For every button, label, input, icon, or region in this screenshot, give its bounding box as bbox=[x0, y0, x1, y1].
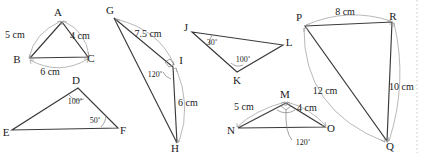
side-label-gi: 7.5 cm bbox=[134, 28, 161, 39]
vertex-label-r: R bbox=[389, 10, 397, 22]
dim-arc-ba-5cm bbox=[29, 21, 61, 58]
triangle-prq: P R Q 8 cm 10 cm 12 cm bbox=[296, 6, 414, 152]
vertex-label-m: M bbox=[280, 88, 290, 100]
vertex-label-q: Q bbox=[386, 140, 394, 152]
dim-arc-gi-75cm bbox=[116, 19, 174, 65]
side-label-ba: 5 cm bbox=[5, 29, 25, 40]
triangles-svg: A B C 5 cm 4 cm 6 cm D E F 100˚ 50˚ G I … bbox=[0, 0, 424, 153]
angle-label-f: 50˚ bbox=[90, 116, 101, 125]
angle-arc-f-50 bbox=[101, 115, 106, 127]
side-label-mo: 4 cm bbox=[297, 102, 317, 113]
side-label-ih: 6 cm bbox=[178, 97, 198, 108]
vertex-label-o: O bbox=[327, 122, 335, 134]
angle-label-j: 30˚ bbox=[207, 38, 218, 47]
angle-label-k: 100˚ bbox=[236, 55, 251, 64]
side-label-bc: 6 cm bbox=[40, 66, 60, 77]
vertex-label-l: L bbox=[286, 36, 293, 48]
triangle-jkl: J L K 30˚ 100˚ bbox=[184, 21, 293, 86]
angle-square-i-120 bbox=[165, 59, 174, 67]
vertex-label-c: C bbox=[87, 52, 94, 64]
angle-arc-i-120 bbox=[163, 72, 171, 79]
vertex-label-j: J bbox=[184, 21, 189, 33]
vertex-label-e: E bbox=[3, 126, 10, 138]
vertex-label-i: I bbox=[179, 54, 183, 66]
angle-leader-m-120 bbox=[286, 110, 292, 140]
angle-label-m: 120˚ bbox=[296, 138, 311, 147]
side-label-ac: 4 cm bbox=[70, 30, 90, 41]
vertex-label-g: G bbox=[106, 4, 114, 16]
triangle-abc: A B C 5 cm 4 cm 6 cm bbox=[5, 6, 95, 77]
side-label-pq: 12 cm bbox=[313, 85, 338, 96]
triangle-mno: M N O 5 cm 4 cm 120˚ bbox=[227, 88, 335, 147]
dim-arrow-a2 bbox=[62, 21, 67, 25]
triangle-def-outline bbox=[12, 88, 118, 130]
geometry-figure-canvas: A B C 5 cm 4 cm 6 cm D E F 100˚ 50˚ G I … bbox=[0, 0, 424, 153]
vertex-label-b: B bbox=[13, 53, 20, 65]
angle-label-d: 100˚ bbox=[68, 97, 83, 106]
vertex-label-p: P bbox=[296, 11, 302, 23]
angle-label-i: 120˚ bbox=[148, 70, 163, 79]
vertex-label-a: A bbox=[54, 6, 62, 18]
side-label-pr: 8 cm bbox=[335, 6, 355, 17]
vertex-label-n: N bbox=[227, 124, 235, 136]
vertex-label-k: K bbox=[233, 74, 241, 86]
vertex-label-d: D bbox=[72, 74, 80, 86]
vertex-label-h: H bbox=[171, 142, 179, 153]
triangle-def: D E F 100˚ 50˚ bbox=[3, 74, 126, 138]
side-label-rq: 10 cm bbox=[389, 81, 414, 92]
side-label-nm: 5 cm bbox=[234, 101, 254, 112]
vertex-label-f: F bbox=[120, 124, 126, 136]
angle-square-m-120 bbox=[281, 103, 291, 110]
